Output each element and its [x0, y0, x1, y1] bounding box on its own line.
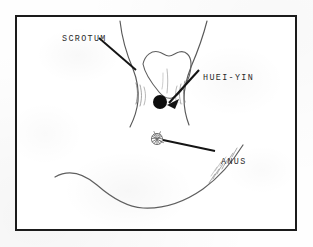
- figure-page: SCROTUM HUEI-YIN ANUS: [0, 0, 313, 247]
- anus-leader-line: [163, 140, 215, 151]
- anus-marking: [151, 132, 163, 145]
- huei-yin-point-marker: [153, 95, 167, 109]
- label-huei-yin: HUEI-YIN: [203, 74, 254, 82]
- buttock-curve: [55, 145, 243, 208]
- label-scrotum: SCROTUM: [62, 35, 107, 43]
- label-anus: ANUS: [221, 158, 247, 166]
- figure-frame: SCROTUM HUEI-YIN ANUS: [15, 15, 297, 231]
- huei-yin-arrow: [167, 70, 199, 109]
- left-thigh-outline: [120, 21, 146, 127]
- anatomical-line-drawing: [17, 17, 299, 233]
